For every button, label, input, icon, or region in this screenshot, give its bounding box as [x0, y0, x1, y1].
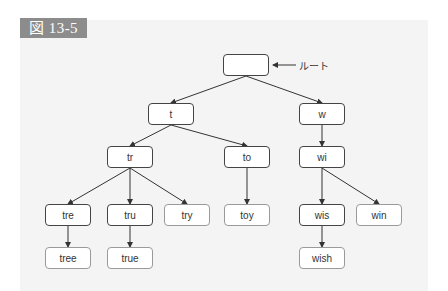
trie-node-win: win — [356, 204, 402, 226]
trie-node-w: w — [299, 103, 345, 125]
trie-node-tree: tree — [45, 247, 91, 269]
trie-node-wi: wi — [299, 146, 345, 168]
edge-t-to — [171, 125, 247, 146]
trie-node-wish: wish — [299, 247, 345, 269]
trie-node-true: true — [107, 247, 153, 269]
edge-tr-try — [130, 168, 187, 204]
edge-t-tr — [130, 125, 171, 146]
trie-node-to: to — [224, 146, 270, 168]
edge-root-w — [246, 76, 322, 103]
trie-node-t: t — [148, 103, 194, 125]
edge-tr-tre — [68, 168, 130, 204]
edge-root-t — [171, 76, 246, 103]
trie-node-tr: tr — [107, 146, 153, 168]
trie-node-tre: tre — [45, 204, 91, 226]
trie-node-tru: tru — [107, 204, 153, 226]
trie-node-toy: toy — [224, 204, 270, 226]
trie-node-wis: wis — [299, 204, 345, 226]
trie-node-try: try — [164, 204, 210, 226]
edge-wi-win — [322, 168, 379, 204]
root-annotation: ルート — [299, 58, 329, 73]
trie-node-root — [223, 54, 269, 76]
